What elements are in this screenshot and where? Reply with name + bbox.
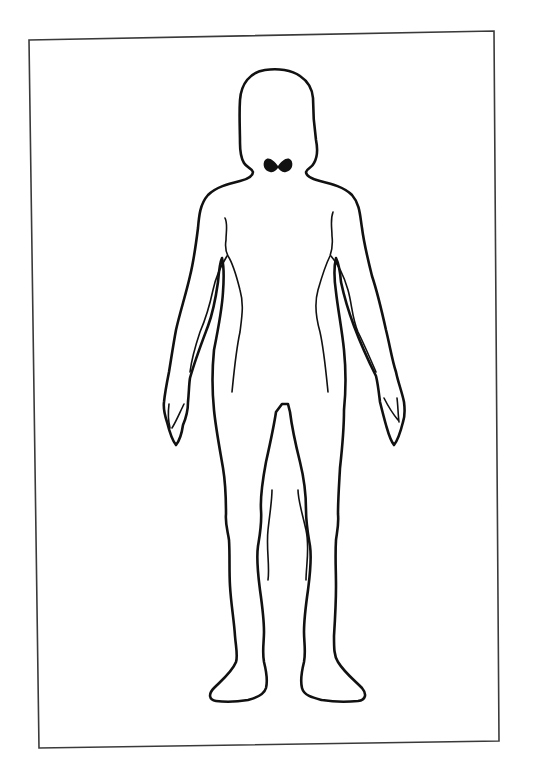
left-knee-contour — [267, 490, 272, 580]
diagram-canvas: female-front-view thyroid — [0, 0, 541, 766]
body-diagram — [0, 0, 541, 766]
